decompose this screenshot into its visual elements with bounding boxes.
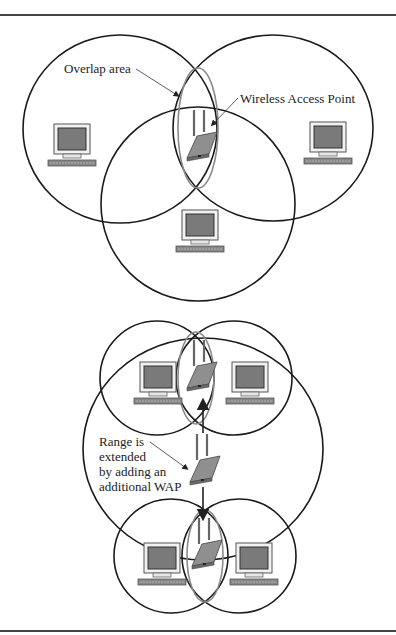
- overlap-pointer-arrow: [136, 69, 177, 95]
- overlap-area-outline: [178, 68, 218, 188]
- wireless-access-point-icon: [192, 518, 222, 569]
- range-label-line: extended: [99, 449, 181, 464]
- range-label-line: by adding an: [99, 464, 181, 479]
- computer-icon: [48, 124, 96, 166]
- computer-icon: [134, 362, 182, 404]
- computer-icon: [226, 362, 274, 404]
- overlap-area-label: Overlap area: [64, 61, 131, 76]
- range-label-line: additional WAP: [99, 479, 181, 494]
- range-extended-label: Range is extended by adding an additiona…: [99, 434, 181, 494]
- computer-icon: [304, 122, 352, 164]
- computer-icon: [138, 543, 186, 585]
- wireless-access-point-icon: [187, 110, 217, 161]
- wireless-access-point-label: Wireless Access Point: [240, 91, 355, 106]
- computer-icon: [230, 543, 278, 585]
- additional-wap-icon: [190, 434, 220, 485]
- range-label-line: Range is: [99, 434, 181, 449]
- wireless-access-point-icon: [187, 340, 217, 391]
- computer-icon: [176, 210, 224, 252]
